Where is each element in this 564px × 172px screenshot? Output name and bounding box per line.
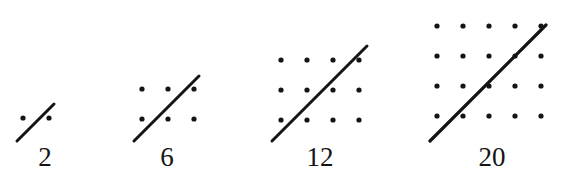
dot <box>486 53 491 58</box>
dot <box>538 83 543 88</box>
dot <box>434 53 439 58</box>
dot <box>165 86 170 91</box>
dot <box>330 117 335 122</box>
figure-label-2: 2 <box>38 142 52 172</box>
figure-label-6: 6 <box>160 142 174 172</box>
dot <box>356 57 361 62</box>
dot <box>46 115 51 120</box>
figure-2: 2 <box>17 104 54 172</box>
dot <box>486 113 491 118</box>
dot <box>460 23 465 28</box>
diagonal-line <box>134 76 199 141</box>
dot <box>165 116 170 121</box>
dot <box>304 57 309 62</box>
figure-6: 6 <box>134 76 199 172</box>
dot <box>486 23 491 28</box>
dot <box>304 87 309 92</box>
dot <box>512 113 517 118</box>
dot <box>512 83 517 88</box>
dot <box>20 115 25 120</box>
dot <box>460 83 465 88</box>
dot-array-diagram: 261220 <box>0 0 564 172</box>
dot <box>460 113 465 118</box>
dot <box>278 87 283 92</box>
figure-20: 20 <box>430 23 546 172</box>
dot <box>330 57 335 62</box>
dot <box>356 117 361 122</box>
dot <box>434 23 439 28</box>
diagonal-line <box>430 25 546 141</box>
diagonal-line <box>17 104 54 141</box>
figures-root: 261220 <box>17 23 546 172</box>
dot <box>191 86 196 91</box>
dot <box>278 117 283 122</box>
dot <box>356 87 361 92</box>
dot <box>139 116 144 121</box>
figure-label-20: 20 <box>479 142 506 172</box>
dot <box>434 113 439 118</box>
dot <box>304 117 309 122</box>
dot <box>460 53 465 58</box>
figure-12: 12 <box>272 46 367 172</box>
dot <box>139 86 144 91</box>
dot <box>434 83 439 88</box>
dot <box>330 87 335 92</box>
dot <box>512 23 517 28</box>
dot <box>538 53 543 58</box>
dot <box>538 113 543 118</box>
figure-label-12: 12 <box>307 142 334 172</box>
dot <box>191 116 196 121</box>
dot <box>278 57 283 62</box>
diagonal-line <box>272 46 367 141</box>
